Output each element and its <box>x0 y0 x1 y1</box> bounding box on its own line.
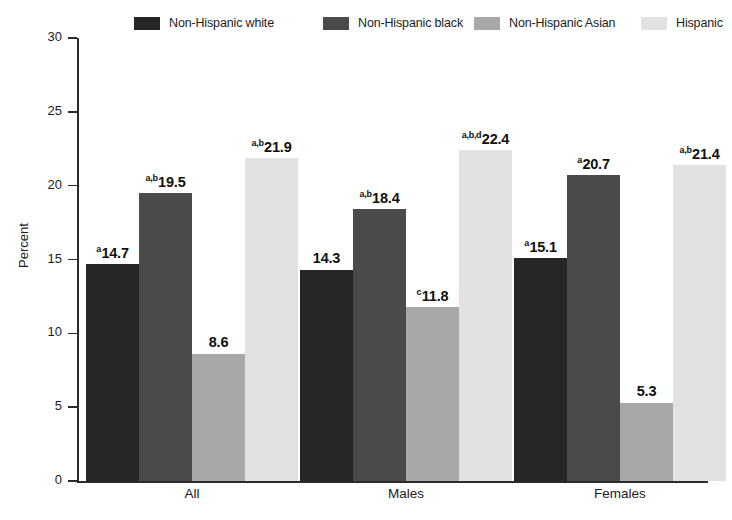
bar-all-2[interactable] <box>192 354 245 481</box>
bar-value-label: 8.6 <box>180 334 257 350</box>
bar-females-0[interactable] <box>514 258 567 481</box>
bar-value-label: a,b21.4 <box>661 145 732 162</box>
bar-all-0[interactable] <box>86 264 139 481</box>
bar-all-3[interactable] <box>245 158 298 481</box>
bar-value-label: 14.3 <box>288 250 365 266</box>
group-label-females: Females <box>560 486 680 501</box>
bar-males-3[interactable] <box>459 150 512 481</box>
cropped-caption-text <box>0 509 732 520</box>
bar-females-3[interactable] <box>673 165 726 481</box>
group-label-males: Males <box>346 486 466 501</box>
bar-chart: Non-Hispanic whiteNon-Hispanic blackNon-… <box>0 0 732 520</box>
bar-value-label: a,b19.5 <box>127 173 204 190</box>
bar-value-label: 5.3 <box>608 383 685 399</box>
bar-value-label: a,b21.9 <box>233 138 310 155</box>
bar-value-label: a,b,d22.4 <box>447 130 524 147</box>
bar-females-2[interactable] <box>620 403 673 481</box>
bar-males-0[interactable] <box>300 270 353 481</box>
bar-value-label: a15.1 <box>502 238 579 255</box>
bar-males-2[interactable] <box>406 307 459 481</box>
bar-females-1[interactable] <box>567 175 620 481</box>
bar-value-label: a20.7 <box>555 155 632 172</box>
bar-value-label: a,b18.4 <box>341 189 418 206</box>
bar-value-label: c11.8 <box>394 287 471 304</box>
plot-area: 051015202530 Percent a14.7a,b19.58.6a,b2… <box>0 0 732 520</box>
bar-value-label: a14.7 <box>74 244 151 261</box>
group-label-all: All <box>132 486 252 501</box>
